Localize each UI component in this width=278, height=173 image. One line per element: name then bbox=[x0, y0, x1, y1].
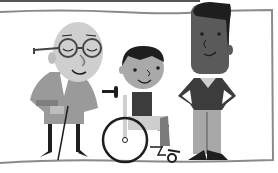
illustration bbox=[0, 0, 278, 173]
tall-man bbox=[178, 2, 236, 160]
top-edge bbox=[0, 0, 200, 2]
elderly-man bbox=[30, 22, 103, 160]
child-in-wheelchair bbox=[102, 46, 180, 162]
people-illustration bbox=[0, 0, 278, 173]
